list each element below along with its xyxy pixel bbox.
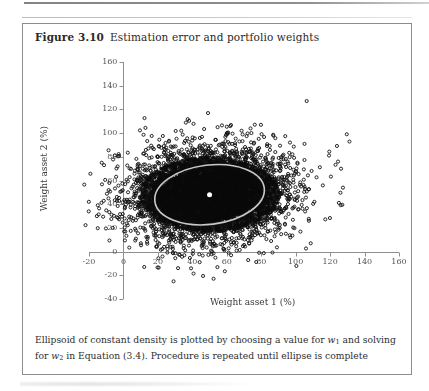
figure-box: Figure 3.10Estimation error and portfoli… (22, 23, 412, 375)
scatter-plot (23, 54, 413, 326)
caption-line-2: Equation (3.4). Procedure is repeated un… (78, 350, 368, 361)
caption-part-3: in (63, 350, 75, 361)
page-scan-smudge (20, 381, 250, 387)
figure-caption: Ellipsoid of constant density is plotted… (35, 333, 399, 366)
figure-title: Figure 3.10Estimation error and portfoli… (35, 31, 319, 43)
figure-title-text: Estimation error and portfolio weights (110, 31, 319, 43)
figure-number: Figure 3.10 (35, 31, 104, 43)
scatter-plot-canvas (23, 54, 413, 326)
caption-part-1: Ellipsoid of constant density is plotted… (35, 334, 328, 345)
page-scan-line-top (24, 2, 429, 4)
caption-variable-w2: w (51, 350, 59, 361)
page-scan-line-secondary (22, 17, 412, 18)
figure-page: { "figure": { "number": "Figure 3.10", "… (0, 0, 429, 391)
